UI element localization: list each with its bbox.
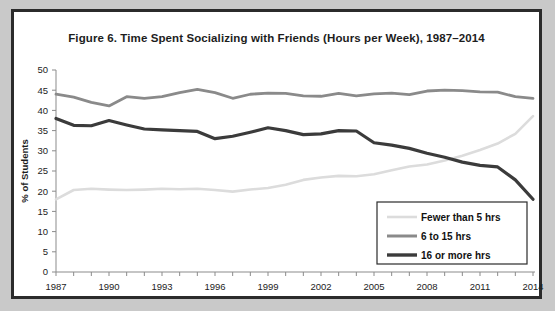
x-axis-tick-label: 1987 bbox=[45, 281, 66, 292]
legend-label-1: 6 to 15 hrs bbox=[421, 231, 471, 242]
x-axis-tick-label: 1996 bbox=[204, 281, 225, 292]
x-axis-tick-label: 1990 bbox=[98, 281, 119, 292]
x-axis-tick-label: 2008 bbox=[416, 281, 437, 292]
y-axis-tick-label: 10 bbox=[37, 226, 48, 237]
legend-label-2: 16 or more hrs bbox=[421, 250, 491, 261]
line-chart: 05101520253035404550% of Students1987199… bbox=[14, 12, 545, 302]
y-axis-tick-label: 20 bbox=[37, 186, 48, 197]
series-line-0 bbox=[56, 116, 533, 199]
series-line-1 bbox=[56, 89, 533, 106]
x-axis-tick-label: 1999 bbox=[257, 281, 278, 292]
x-axis-tick-label: 2014 bbox=[522, 281, 543, 292]
x-axis-tick-label: 1993 bbox=[151, 281, 172, 292]
y-axis-tick-label: 40 bbox=[37, 105, 48, 116]
x-axis-tick-label: 2011 bbox=[470, 281, 490, 292]
legend-label-0: Fewer than 5 hrs bbox=[421, 212, 501, 223]
y-axis-title: % of Students bbox=[19, 139, 30, 202]
chart-canvas: 05101520253035404550% of Students1987199… bbox=[14, 12, 545, 302]
y-axis-tick-label: 50 bbox=[37, 64, 48, 75]
y-axis-tick-label: 5 bbox=[43, 246, 48, 257]
y-axis-tick-label: 45 bbox=[37, 85, 48, 96]
y-axis-tick-label: 35 bbox=[37, 125, 48, 136]
x-axis-tick-label: 2005 bbox=[363, 281, 384, 292]
series-line-2 bbox=[56, 118, 533, 199]
y-axis-tick-label: 25 bbox=[37, 165, 48, 176]
y-axis-tick-label: 15 bbox=[37, 206, 48, 217]
y-axis-tick-label: 0 bbox=[43, 266, 48, 277]
x-axis-tick-label: 2002 bbox=[310, 281, 331, 292]
y-axis-tick-label: 30 bbox=[37, 145, 48, 156]
figure-panel: Figure 6. Time Spent Socializing with Fr… bbox=[11, 9, 542, 299]
